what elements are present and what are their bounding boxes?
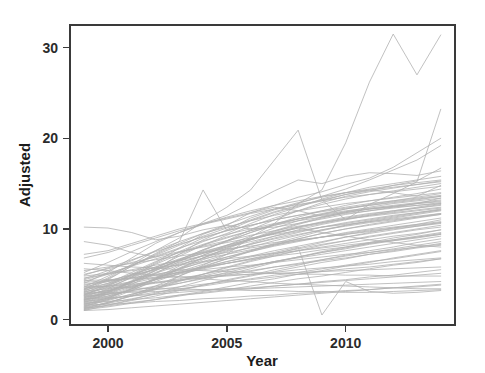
x-tick-label: 2005 [211, 335, 242, 351]
x-tick-label: 2010 [330, 335, 361, 351]
y-tick-label: 10 [42, 221, 58, 237]
y-tick-label: 20 [42, 130, 58, 146]
line-chart-figure: 0102030 200020052010 Adjusted Year [0, 0, 485, 373]
x-tick-label: 2000 [92, 335, 123, 351]
y-tick-label: 30 [42, 40, 58, 56]
y-axis-title: Adjusted [16, 143, 33, 207]
x-axis-title: Year [246, 352, 278, 369]
y-tick-label: 0 [50, 312, 58, 328]
